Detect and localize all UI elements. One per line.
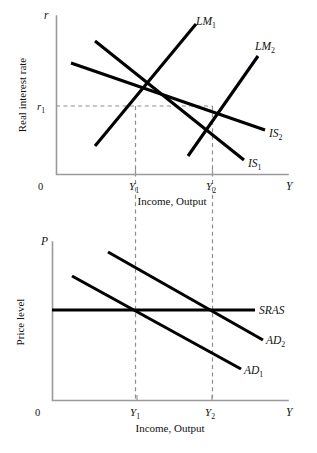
panel-is-lm: LM1 LM2 IS1 IS2 r Y 0 r1 Y1 Y2 Income, O… [16,9,294,400]
curve-ad2 [108,252,263,340]
upper-x-axis-title: Income, Output [137,195,206,207]
lower-x-axis-symbol: Y [286,406,294,418]
label-ad2: AD2 [265,334,285,349]
lower-y-axis-symbol: P [40,235,48,247]
label-sras: SRAS [259,304,285,316]
curve-ad1 [72,276,241,369]
upper-y-axis-symbol: r [44,9,49,21]
curve-lm1 [95,24,196,146]
label-lm1: LM1 [195,15,216,30]
label-ad1: AD1 [243,364,263,379]
lower-axes [53,242,289,401]
upper-y-axis-title: Real interest rate [16,58,28,133]
economics-figure: LM1 LM2 IS1 IS2 r Y 0 r1 Y1 Y2 Income, O… [0,0,317,453]
upper-ytick-r1: r1 [37,100,45,115]
lower-y-axis-title: Price level [14,299,26,346]
lower-origin-label: 0 [35,407,40,418]
lower-xtick-y1: Y1 [130,406,140,421]
figure-svg: LM1 LM2 IS1 IS2 r Y 0 r1 Y1 Y2 Income, O… [0,0,317,453]
upper-xtick-y1: Y1 [129,180,139,195]
upper-xtick-y2: Y2 [206,180,216,195]
label-is2: IS2 [268,127,283,142]
upper-origin-label: 0 [38,181,43,192]
curve-is2 [71,63,265,130]
panel-ad-sras: SRAS AD1 AD2 P Y 0 Y1 Y2 Income, Output … [14,235,294,434]
label-lm2: LM2 [254,40,275,55]
lower-x-axis-title: Income, Output [135,422,204,434]
lower-xtick-y2: Y2 [205,406,215,421]
label-is1: IS1 [247,157,262,172]
upper-axes [57,16,289,175]
upper-x-axis-symbol: Y [286,180,294,192]
curve-is1 [95,41,244,160]
